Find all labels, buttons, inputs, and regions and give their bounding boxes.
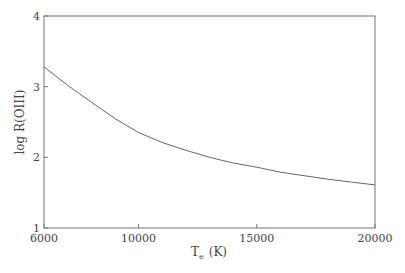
x-tick-label: 10000 xyxy=(121,232,156,245)
y-tick-label: 2 xyxy=(33,151,40,164)
x-tick-label: 6000 xyxy=(30,232,58,245)
y-axis-label: log R(OIII) xyxy=(13,89,27,154)
data-line xyxy=(44,67,375,185)
y-tick-label: 3 xyxy=(33,81,40,94)
x-axis-ticks: 6000100001500020000 xyxy=(30,224,393,245)
x-tick-label: 15000 xyxy=(239,232,274,245)
y-tick-label: 4 xyxy=(33,10,40,23)
x-tick-label: 20000 xyxy=(358,232,393,245)
plot-frame xyxy=(44,16,375,228)
x-axis-label: Te(K) xyxy=(191,245,227,261)
line-chart: 1234 6000100001500020000 log R(OIII) Te(… xyxy=(0,0,405,273)
y-axis-ticks: 1234 xyxy=(33,10,48,235)
